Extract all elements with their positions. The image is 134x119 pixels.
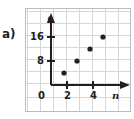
- y-axis-label: t: [47, 15, 52, 25]
- plot-frame: t 16 8 0 2 4 n: [25, 8, 131, 112]
- y-tick-label-8: 8: [37, 56, 44, 66]
- x-tick-label-4: 4: [90, 91, 97, 101]
- x-tick-label-2: 2: [64, 91, 71, 101]
- part-label: a): [2, 28, 16, 40]
- origin-label: 0: [38, 91, 45, 101]
- y-tick-label-16: 16: [30, 32, 44, 42]
- figure-container: a): [0, 0, 134, 119]
- axis-labels: t 16 8 0 2 4 n: [26, 9, 130, 111]
- x-axis-label: n: [112, 91, 119, 101]
